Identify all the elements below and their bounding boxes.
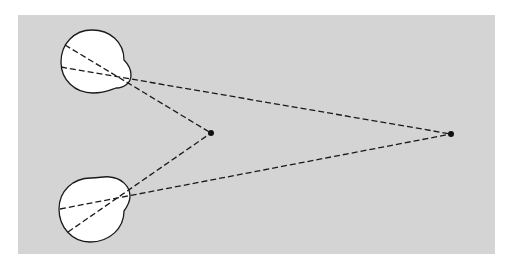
- top-eye-outline: [61, 30, 131, 93]
- top-eye: [61, 30, 451, 134]
- convergence-diagram: [0, 0, 514, 265]
- bottom-eye-ray-far: [60, 134, 451, 209]
- far-fixation-point: [448, 131, 454, 137]
- top-eye-ray-far: [61, 67, 451, 134]
- bottom-eye: [59, 133, 451, 242]
- bottom-eye-outline: [59, 177, 130, 242]
- near-fixation-point: [208, 130, 214, 136]
